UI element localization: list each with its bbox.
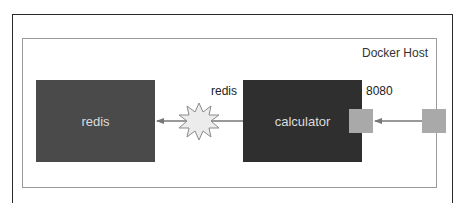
redis-container-label: redis xyxy=(81,114,109,129)
container-port-square xyxy=(349,109,373,133)
port-label: 8080 xyxy=(366,84,393,98)
calculator-container: calculator xyxy=(243,80,362,162)
docker-host-label: Docker Host xyxy=(362,46,428,60)
calculator-container-label: calculator xyxy=(275,114,331,129)
redis-container: redis xyxy=(36,80,155,162)
link-label: redis xyxy=(211,84,237,98)
host-port-square xyxy=(422,109,446,133)
